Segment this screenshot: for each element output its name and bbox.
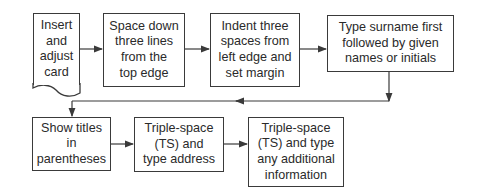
step-label: Indent three spaces from left edge and s… bbox=[219, 19, 292, 81]
step-insert-card: Insert and adjust card bbox=[33, 13, 80, 85]
step-triple-space-info: Triple-space (TS) and type any additiona… bbox=[248, 117, 344, 187]
step-indent: Indent three spaces from left edge and s… bbox=[210, 13, 300, 87]
step-label: Triple-space (TS) and type any additiona… bbox=[257, 121, 335, 183]
step-label: Space down three lines from the top edge bbox=[109, 19, 178, 81]
step-label: Insert and adjust card bbox=[40, 18, 74, 80]
step-label: Show titles in parentheses bbox=[37, 121, 106, 168]
step-space-down: Space down three lines from the top edge bbox=[103, 13, 185, 87]
step-type-surname: Type surname first followed by given nam… bbox=[327, 15, 454, 72]
step-label: Type surname first followed by given nam… bbox=[339, 20, 443, 67]
step-triple-space-address: Triple-space (TS) and type address bbox=[134, 117, 224, 172]
step-show-titles: Show titles in parentheses bbox=[32, 117, 111, 171]
step-label: Triple-space (TS) and type address bbox=[143, 121, 215, 168]
